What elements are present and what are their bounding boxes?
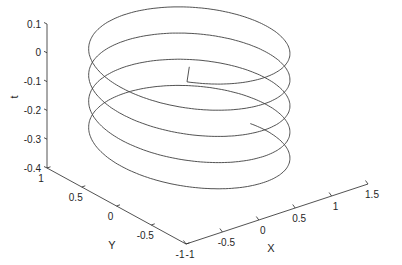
- y-tick: [186, 243, 190, 244]
- z-tick: [44, 51, 47, 53]
- z-tick-label: -0.1: [24, 76, 42, 87]
- z-tick: [44, 138, 47, 140]
- y-tick-label: 0.5: [69, 192, 83, 203]
- z-tick: [44, 109, 47, 111]
- tick-labels: -1-0.500.511.5-1-0.500.51-0.4-0.3-0.2-0.…: [24, 19, 380, 261]
- x-tick-label: 0.5: [292, 213, 306, 224]
- x-tick: [220, 229, 223, 233]
- y-tick: [47, 167, 51, 168]
- x-tick: [366, 181, 369, 185]
- axes: [47, 24, 368, 244]
- y-tick: [82, 186, 86, 187]
- x-tick: [256, 217, 259, 221]
- x-tick-label: 1.5: [365, 189, 379, 200]
- x-tick-label: 0: [260, 225, 266, 236]
- z-tick: [44, 167, 47, 169]
- x-tick-label: -1: [186, 249, 195, 260]
- y-tick-label: -0.5: [137, 230, 155, 241]
- z-tick-label: -0.2: [24, 105, 42, 116]
- y-tick-label: -1: [176, 249, 185, 260]
- x-tick: [329, 193, 332, 197]
- x-tick-label: -0.5: [218, 237, 236, 248]
- z-axis-label: t: [8, 95, 20, 98]
- z-tick-label: 0.1: [27, 19, 41, 30]
- z-tick: [44, 80, 47, 82]
- x-tick: [293, 205, 296, 209]
- x-tick-label: 1: [333, 201, 339, 212]
- z-tick-label: -0.4: [24, 163, 42, 174]
- x-axis-line: [186, 184, 368, 244]
- y-axis-label: Y: [108, 239, 116, 251]
- z-tick: [44, 23, 47, 25]
- y-tick-label: 0: [108, 211, 114, 222]
- x-axis-label: X: [267, 242, 275, 254]
- z-tick-label: -0.3: [24, 134, 42, 145]
- y-tick: [117, 205, 121, 206]
- helix-line: [89, 7, 290, 189]
- chart-canvas: -1-0.500.511.5-1-0.500.51-0.4-0.3-0.2-0.…: [0, 0, 402, 265]
- ticks: [44, 23, 368, 245]
- z-tick-label: 0: [35, 47, 41, 58]
- y-tick-label: 1: [38, 173, 44, 184]
- y-tick: [151, 224, 155, 225]
